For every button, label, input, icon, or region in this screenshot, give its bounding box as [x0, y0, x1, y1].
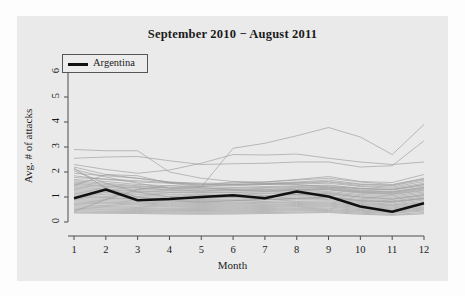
x-tick-label: 1 [64, 244, 84, 255]
y-tick-label: 2 [50, 162, 61, 180]
series-layer [74, 125, 424, 216]
legend-line-swatch [68, 63, 88, 66]
y-tick-label: 6 [50, 62, 61, 80]
y-tick-label: 1 [50, 187, 61, 205]
x-tick-label: 10 [350, 244, 370, 255]
x-tick-label: 8 [287, 244, 307, 255]
x-tick-label: 12 [414, 244, 434, 255]
x-tick-label: 9 [319, 244, 339, 255]
chart-figure: September 2010 − August 2011 Avg. # of a… [0, 0, 465, 296]
x-tick-label: 5 [191, 244, 211, 255]
x-tick-label: 11 [382, 244, 402, 255]
y-tick-label: 5 [50, 87, 61, 105]
y-axis-title: Avg. # of attacks [22, 66, 34, 226]
x-tick-label: 6 [223, 244, 243, 255]
x-tick-label: 3 [128, 244, 148, 255]
y-tick-label: 3 [50, 137, 61, 155]
y-tick-label: 0 [50, 212, 61, 230]
x-tick-label: 2 [96, 244, 116, 255]
x-axis-title: Month [0, 259, 465, 271]
legend-entry-argentina: Argentina [93, 57, 135, 68]
y-tick-label: 4 [50, 112, 61, 130]
x-tick-label: 7 [255, 244, 275, 255]
x-tick-label: 4 [159, 244, 179, 255]
